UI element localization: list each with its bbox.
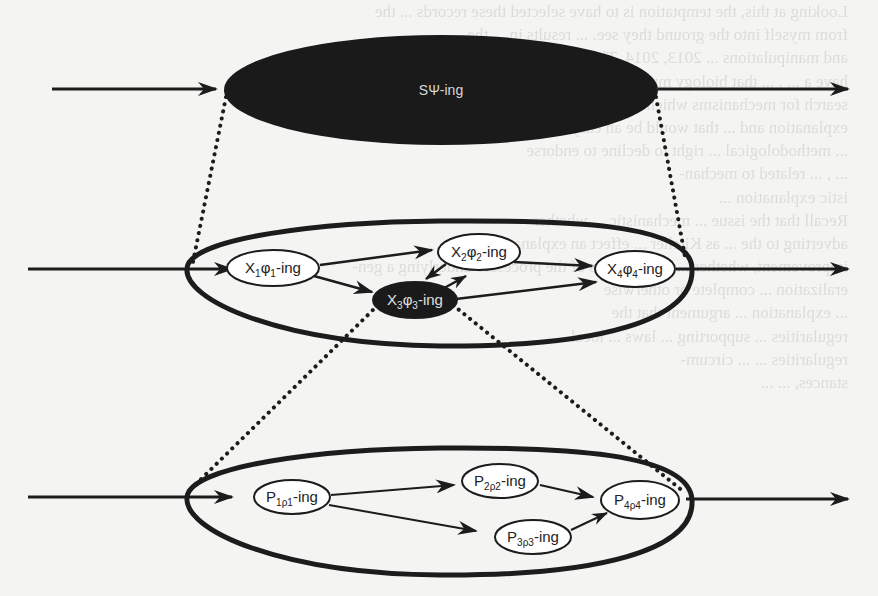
- edge-p2-p4: [540, 485, 593, 497]
- edge-p3-p4: [571, 513, 607, 530]
- middle-level: X1φ1-ing X2φ2-ing X3φ3-ing X4φ4-ing: [28, 221, 848, 346]
- dotted-connector-left: [193, 97, 226, 262]
- edge-x2-x3: [426, 264, 446, 279]
- edge-p1-p2: [331, 485, 454, 495]
- node-x4: X4φ4-ing: [595, 251, 675, 287]
- node-p4: P4ρ4-ing: [601, 481, 679, 519]
- top-mechanism-label: SΨ-ing: [419, 82, 463, 98]
- mechanism-diagram: SΨ-ing X1φ1-ing X2φ2-ing: [0, 0, 878, 596]
- edge-x2-x4: [514, 262, 592, 266]
- node-p3: P3ρ3-ing: [495, 520, 571, 554]
- dotted-connector-left: [190, 305, 378, 490]
- node-p2: P2ρ2-ing: [462, 464, 538, 498]
- node-x3: X3φ3-ing: [373, 282, 457, 318]
- edge-x1-x2: [320, 250, 432, 265]
- edge-x3-x4: [456, 282, 596, 299]
- edge-x1-x3: [314, 276, 372, 292]
- edge-p1-p3: [329, 505, 476, 531]
- bottom-level: P1ρ1-ing P2ρ2-ing P3ρ3-ing P4ρ4-ing: [28, 448, 848, 575]
- node-x2: X2φ2-ing: [438, 234, 520, 270]
- node-x1: X1φ1-ing: [227, 250, 319, 286]
- node-p1: P1ρ1-ing: [254, 480, 330, 514]
- top-level: SΨ-ing: [52, 35, 848, 145]
